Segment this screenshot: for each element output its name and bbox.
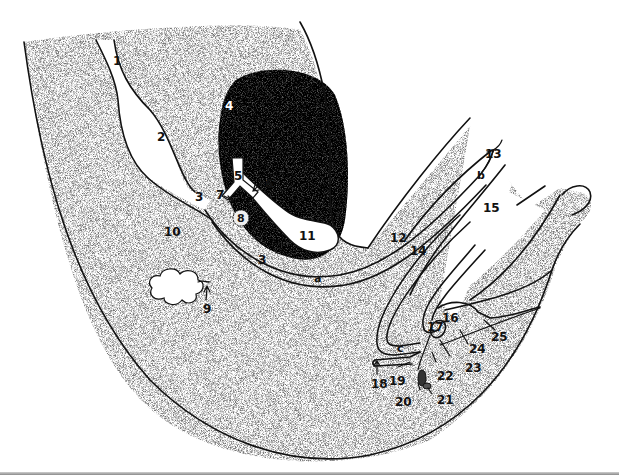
label-19: 19 — [389, 374, 406, 388]
label-3-lower: 3 — [258, 253, 266, 267]
label-8: 8 — [237, 212, 245, 225]
label-a: a — [314, 272, 321, 285]
label-9: 9 — [203, 302, 211, 316]
label-c: c — [397, 342, 404, 355]
label-16: 16 — [442, 311, 459, 325]
label-2: 2 — [157, 130, 165, 144]
anatomical-diagram: 1 2 3 4 5 6 7 8 9 10 11 3 a 12 13 b 14 1… — [0, 0, 619, 475]
label-5: 5 — [234, 169, 242, 183]
label-25: 25 — [491, 330, 508, 344]
label-10: 10 — [164, 225, 181, 239]
label-15: 15 — [483, 201, 500, 215]
label-7: 7 — [216, 188, 224, 202]
label-3-upper: 3 — [195, 190, 203, 204]
label-12: 12 — [390, 231, 407, 245]
label-11: 11 — [299, 229, 316, 243]
label-6: 6 — [265, 177, 273, 191]
label-14: 14 — [410, 244, 427, 258]
label-17: 17 — [427, 320, 444, 334]
label-18: 18 — [371, 377, 388, 391]
label-b: b — [477, 169, 485, 182]
label-20: 20 — [395, 395, 412, 409]
label-22: 22 — [437, 369, 454, 383]
label-24: 24 — [469, 342, 486, 356]
label-21: 21 — [437, 393, 454, 407]
label-23: 23 — [465, 361, 482, 375]
label-4: 4 — [225, 99, 233, 113]
label-1: 1 — [113, 54, 121, 68]
label-13: 13 — [485, 147, 502, 161]
